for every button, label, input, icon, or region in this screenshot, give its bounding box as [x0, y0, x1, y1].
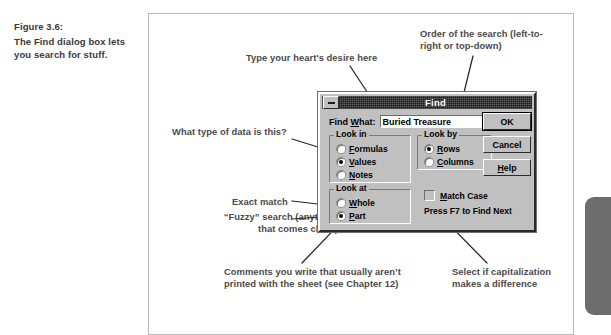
annotation-type-here: Type your heart's desire here: [246, 52, 377, 64]
radio-label: Notes: [349, 170, 373, 180]
figure-caption-text: The Find dialog box lets you search for …: [14, 36, 125, 61]
find-what-input[interactable]: Buried Treasure: [380, 115, 498, 128]
radio-icon-selected: [425, 145, 433, 153]
ok-button[interactable]: OK: [483, 113, 531, 130]
radio-label: Values: [349, 157, 376, 167]
radio-look-in-notes[interactable]: Notes: [337, 170, 373, 180]
radio-icon-selected: [337, 158, 345, 166]
radio-icon-selected: [337, 212, 345, 220]
find-next-hint: Press F7 to Find Next: [424, 206, 512, 216]
radio-label: Formulas: [349, 144, 388, 154]
look-at-title: Look at: [334, 184, 369, 193]
look-by-title: Look by: [422, 130, 459, 139]
annotation-comments: Comments you write that usually aren’t p…: [224, 266, 424, 290]
annotation-order-of-search: Order of the search (left-to- right or t…: [420, 28, 572, 52]
radio-look-in-formulas[interactable]: Formulas: [337, 144, 388, 154]
radio-label: Rows: [437, 144, 460, 154]
page-edge-tab: [585, 197, 611, 315]
figure-caption: Figure 3.6: The Find dialog box lets you…: [14, 20, 138, 62]
look-by-group: Look by Rows Columns: [417, 135, 492, 170]
match-case-label: Match Case: [440, 191, 488, 201]
radio-look-in-values[interactable]: Values: [337, 157, 376, 167]
annotation-fuzzy-search: “Fuzzy” search (anything that comes clos…: [156, 211, 338, 235]
radio-label: Whole: [349, 198, 375, 208]
annotation-capitalization: Select if capitalization makes a differe…: [452, 266, 572, 290]
annotation-data-type: What type of data is this?: [172, 126, 287, 138]
radio-look-at-whole[interactable]: Whole: [337, 198, 375, 208]
annotation-exact-match: Exact match: [232, 196, 288, 208]
match-case-checkbox[interactable]: Match Case: [424, 190, 488, 201]
look-at-group: Look at Whole Part: [329, 189, 411, 224]
checkbox-icon: [424, 190, 435, 201]
find-dialog: Find Find What: Buried Treasure Look in …: [318, 92, 536, 232]
radio-label: Columns: [437, 157, 474, 167]
radio-look-at-part[interactable]: Part: [337, 211, 366, 221]
cancel-button[interactable]: Cancel: [483, 136, 531, 153]
figure-number: Figure 3.6:: [14, 20, 138, 34]
dialog-titlebar[interactable]: Find: [322, 96, 532, 109]
help-button[interactable]: Help: [483, 159, 531, 176]
look-in-group: Look in Formulas Values Notes: [329, 135, 411, 183]
look-in-title: Look in: [334, 130, 369, 139]
radio-look-by-columns[interactable]: Columns: [425, 157, 474, 167]
radio-label: Part: [349, 211, 366, 221]
radio-look-by-rows[interactable]: Rows: [425, 144, 460, 154]
dialog-title: Find: [339, 96, 532, 109]
radio-icon: [337, 145, 345, 153]
find-what-label: Find What:: [329, 117, 376, 127]
minimize-icon[interactable]: [323, 96, 339, 109]
radio-icon: [337, 171, 345, 179]
radio-icon: [337, 199, 345, 207]
radio-icon: [425, 158, 433, 166]
find-what-row: Find What: Buried Treasure: [329, 115, 498, 128]
